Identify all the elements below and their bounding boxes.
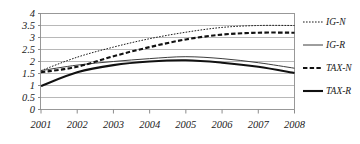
y-tick-label: 0.5 [22, 92, 35, 103]
legend-label-tax-n: TAX-N [326, 63, 352, 73]
y-tick-label: 3.5 [21, 20, 35, 31]
x-axis-tickmarks [41, 110, 295, 114]
x-tick-label: 2005 [175, 119, 196, 130]
series-line-tax-r [41, 60, 295, 86]
x-axis-tick-labels: 20012002200320042005200620072008 [31, 119, 306, 130]
legend-label-tax-r: TAX-R [326, 86, 351, 96]
x-tick-label: 2008 [284, 119, 306, 130]
y-tick-label: 1.5 [22, 68, 35, 79]
x-tick-label: 2004 [139, 119, 161, 130]
y-tick-label: 3 [29, 32, 35, 43]
x-tick-label: 2001 [31, 119, 52, 130]
series-line-ig-n [41, 25, 295, 70]
x-tick-label: 2002 [67, 119, 89, 130]
legend-label-ig-r: IG-R [325, 40, 345, 50]
y-tick-label: 2.5 [22, 44, 35, 55]
y-tick-label: 1 [30, 80, 35, 91]
x-tick-label: 2006 [212, 119, 234, 130]
series-line-ig-r [41, 57, 295, 71]
chart-figure: 00.511.522.533.54 2001200220032004200520… [0, 0, 360, 144]
data-series-group [41, 25, 295, 86]
y-axis-tick-labels: 00.511.522.533.54 [21, 8, 36, 115]
y-tick-label: 0 [30, 104, 36, 115]
x-tick-label: 2003 [103, 119, 124, 130]
y-tick-label: 2 [30, 56, 36, 67]
y-tick-label: 4 [30, 8, 36, 19]
chart-legend: IG-NIG-RTAX-NTAX-R [303, 17, 352, 96]
line-chart: 00.511.522.533.54 2001200220032004200520… [0, 0, 360, 144]
legend-label-ig-n: IG-N [325, 17, 346, 27]
x-tick-label: 2007 [248, 119, 270, 130]
